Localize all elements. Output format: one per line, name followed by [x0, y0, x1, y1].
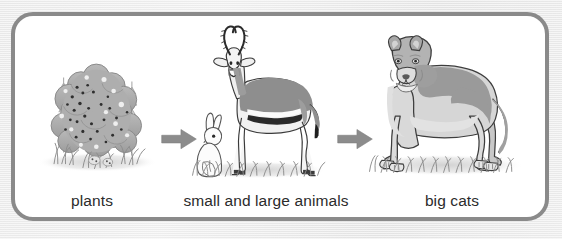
- diagram-frame: plants small and large animals big cats: [11, 12, 549, 221]
- gazelle-icon: [188, 26, 326, 178]
- stage-label-plants: plants: [17, 192, 167, 210]
- food-chain-illustration: [15, 16, 545, 217]
- stage-label-small-and-large-animals: small and large animals: [155, 192, 377, 210]
- arrow-right-icon-1: [162, 129, 197, 148]
- bush-icon: [38, 64, 157, 172]
- lion-icon: [366, 36, 524, 176]
- arrow-right-icon-2: [338, 129, 373, 148]
- stage-label-big-cats: big cats: [367, 192, 537, 210]
